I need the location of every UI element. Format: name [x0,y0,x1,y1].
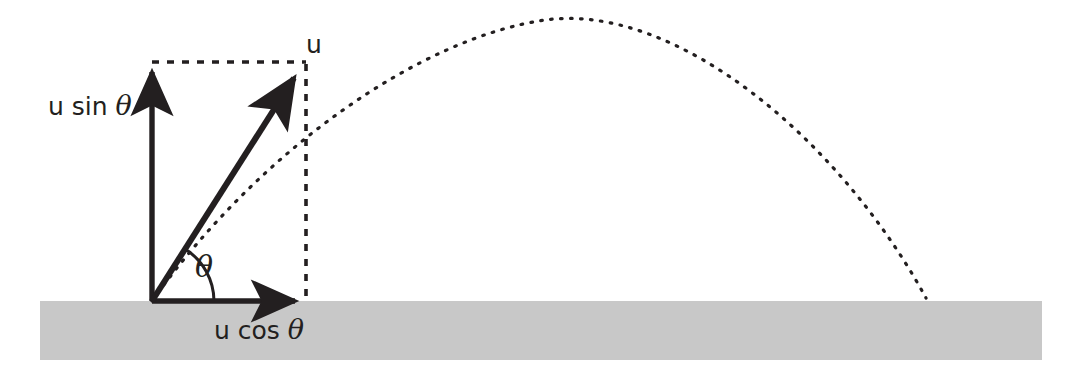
vertical-component-label: u sin θ [48,92,132,119]
theta-symbol-vertical: θ [116,90,132,121]
resultant-vector-label: u [306,32,322,57]
angle-label: θ [195,252,213,282]
theta-symbol-horizontal: θ [288,314,304,345]
resultant-velocity-arrow [152,78,294,301]
horizontal-component-text: u cos [214,316,280,345]
horizontal-component-label: u cos θ [214,316,304,343]
projectile-diagram: u sin θ u cos θ u θ [0,0,1085,374]
ground-strip [40,301,1042,360]
figure-canvas [0,0,1085,374]
vertical-component-text: u sin [48,92,108,121]
trajectory-path [152,18,926,301]
